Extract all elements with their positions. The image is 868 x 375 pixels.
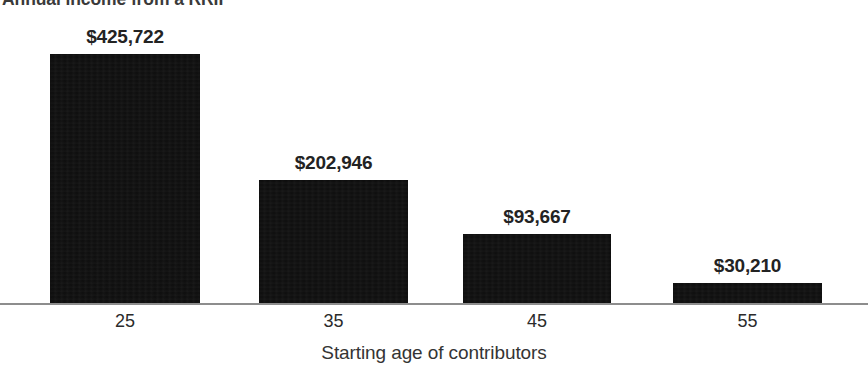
bar-group-45: $93,667 45 [463,0,611,304]
x-tick-label: 55 [737,311,757,332]
bar-group-25: $425,722 25 [50,0,200,304]
x-tick-label: 45 [527,311,547,332]
bar-rect [50,54,200,303]
x-tick-label: 35 [323,311,343,332]
x-tick-label: 25 [115,311,135,332]
bar-value-label: $202,946 [295,152,373,174]
plot-area: $425,722 25 $202,946 35 $93,667 45 $30,2… [0,0,868,304]
bar-value-label: $93,667 [503,206,570,228]
bar-rect [463,234,611,303]
bar-group-55: $30,210 55 [673,0,822,304]
bar-value-label: $30,210 [714,255,781,277]
bar-rect [673,283,822,303]
x-axis-title: Starting age of contributors [0,342,868,364]
bar-rect [259,180,408,303]
bar-value-label: $425,722 [86,26,164,48]
bar-chart: Annual income from a RRIF $425,722 25 $2… [0,0,868,375]
bar-group-35: $202,946 35 [259,0,408,304]
